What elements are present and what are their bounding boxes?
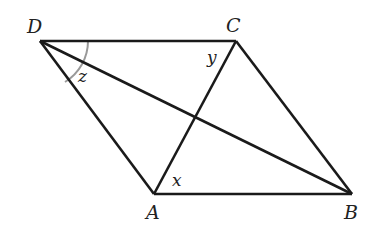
side-cb	[236, 41, 352, 194]
diagonal-ac	[154, 41, 236, 194]
angle-label-y: y	[206, 47, 217, 67]
angle-label-z: z	[77, 66, 88, 86]
parallelogram-diagram: D C A B z y x	[0, 0, 371, 227]
vertex-label-d: D	[26, 15, 42, 37]
angle-label-x: x	[172, 170, 182, 190]
side-da	[40, 41, 154, 194]
vertex-label-c: C	[226, 14, 241, 36]
vertex-label-a: A	[144, 201, 160, 223]
vertex-label-b: B	[343, 201, 358, 223]
